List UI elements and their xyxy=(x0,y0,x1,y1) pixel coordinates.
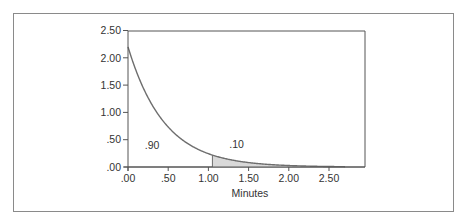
x-tick-label: 1.00 xyxy=(198,172,219,184)
y-tick-label: 1.50 xyxy=(101,79,122,91)
area-label: .90 xyxy=(145,139,160,151)
y-tick-label: .50 xyxy=(106,133,121,145)
area-annotations: .90.10 xyxy=(145,138,244,151)
y-tick-label: 2.00 xyxy=(101,52,122,64)
y-tick-label: .00 xyxy=(106,161,121,173)
y-tick-label: 1.00 xyxy=(101,106,122,118)
x-tick-label: 2.50 xyxy=(319,172,340,184)
x-tick-label: .50 xyxy=(161,172,176,184)
exponential-density-chart: .00.501.001.502.002.50 .00.501.001.502.0… xyxy=(0,0,461,222)
plot-border xyxy=(128,31,365,167)
y-axis: .00.501.001.502.002.50 xyxy=(101,24,128,173)
x-axis-title: Minutes xyxy=(232,187,269,199)
x-tick-label: 2.00 xyxy=(279,172,300,184)
x-tick-label: .00 xyxy=(121,172,136,184)
y-tick-label: 2.50 xyxy=(101,24,122,36)
area-label: .10 xyxy=(229,138,244,150)
plot-area xyxy=(128,31,365,167)
x-axis: .00.501.001.502.002.50 xyxy=(121,167,365,184)
x-tick-label: 1.50 xyxy=(238,172,259,184)
